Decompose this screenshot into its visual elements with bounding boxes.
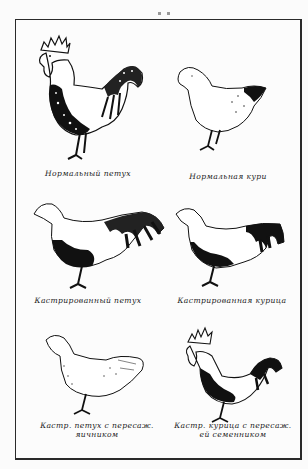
caption-normal-rooster: Нормальный петух	[38, 169, 138, 178]
caption-castrated-rooster-ovary: Кастр. петух с пересаж. яичником	[32, 421, 162, 439]
caption-line-1: Кастр. курица с пересаж.	[168, 421, 298, 430]
rooster-illustration-icon	[24, 23, 154, 163]
feminized-rooster-illustration-icon	[34, 330, 164, 420]
caption-castrated-hen-testis: Кастр. курица с пересаж. ей семенником	[168, 421, 298, 439]
caption-line-1: Кастр. петух с пересаж.	[32, 421, 162, 430]
cropped-header-mark	[158, 0, 178, 4]
caption-normal-hen: Нормальная кури	[176, 172, 280, 181]
masculinized-hen-illustration-icon	[176, 320, 296, 425]
caption-castrated-hen: Кастрированная курица	[170, 296, 294, 305]
hen-illustration-icon	[166, 62, 296, 162]
caption-line-2: яичником	[32, 430, 162, 439]
castrated-hen-illustration-icon	[166, 202, 301, 292]
capon-illustration-icon	[26, 194, 171, 294]
caption-castrated-rooster: Кастрированный петух	[28, 296, 148, 305]
caption-line-2: ей семенником	[168, 430, 298, 439]
figure-frame: Нормальный петух Нормальная кури Кастрир…	[15, 19, 302, 460]
